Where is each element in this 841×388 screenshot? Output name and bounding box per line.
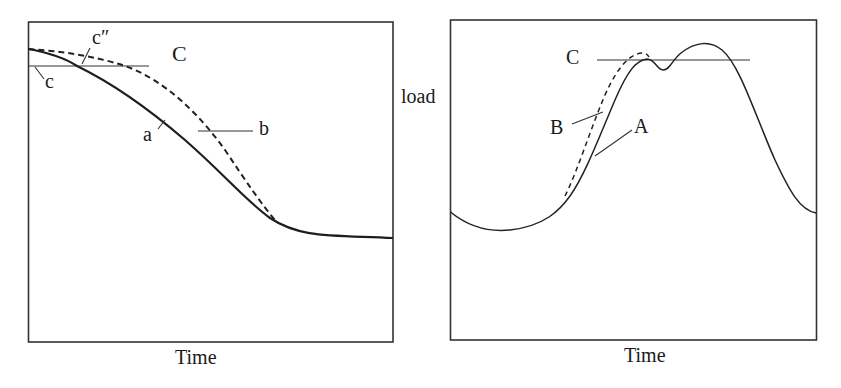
- left-label-a: a: [143, 124, 152, 144]
- right-plot-frame: [451, 20, 817, 340]
- leader-c: [35, 67, 44, 79]
- left-panel: [29, 22, 394, 342]
- left-x-axis-label: Time: [175, 347, 217, 367]
- right-panel: [451, 20, 817, 340]
- left-label-c-double-prime: c″: [92, 27, 109, 47]
- left-label-c: c: [45, 71, 54, 91]
- left-label-b: b: [259, 118, 269, 138]
- right-label-C: C: [566, 47, 579, 67]
- right-label-B: B: [550, 117, 563, 137]
- left-label-C: C: [172, 43, 187, 65]
- figure-svg: [0, 0, 841, 388]
- left-curve-a-solid: [29, 49, 394, 238]
- right-x-axis-label: Time: [624, 345, 666, 365]
- figure: C c c″ a b Time C B A load Time: [0, 0, 841, 388]
- right-y-axis-label: load: [401, 86, 435, 106]
- right-label-A: A: [634, 116, 648, 136]
- leader-B: [572, 112, 603, 124]
